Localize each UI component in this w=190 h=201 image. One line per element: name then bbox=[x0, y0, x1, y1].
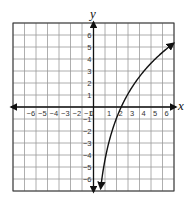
svg-text:−4: −4 bbox=[83, 151, 92, 160]
svg-text:6: 6 bbox=[87, 31, 91, 40]
svg-text:4: 4 bbox=[87, 55, 91, 64]
svg-text:1: 1 bbox=[87, 91, 91, 100]
svg-text:−3: −3 bbox=[83, 139, 92, 148]
svg-text:3: 3 bbox=[87, 67, 91, 76]
y-axis-label: y bbox=[88, 6, 96, 21]
svg-text:4: 4 bbox=[142, 109, 146, 118]
svg-text:5: 5 bbox=[87, 43, 91, 52]
svg-text:−6: −6 bbox=[27, 109, 36, 118]
svg-text:1: 1 bbox=[107, 109, 111, 118]
log-function-graph: −6−5−4−3−2−10123456−6−5−4−3−2−1123456 x … bbox=[0, 0, 190, 201]
svg-text:6: 6 bbox=[165, 109, 169, 118]
svg-text:−2: −2 bbox=[73, 109, 82, 118]
svg-text:−5: −5 bbox=[83, 163, 92, 172]
svg-text:−2: −2 bbox=[83, 127, 92, 136]
svg-text:2: 2 bbox=[87, 79, 91, 88]
svg-text:−6: −6 bbox=[83, 175, 92, 184]
svg-text:−1: −1 bbox=[83, 115, 92, 124]
svg-text:−3: −3 bbox=[61, 109, 70, 118]
x-axis-label: x bbox=[177, 98, 184, 113]
svg-text:3: 3 bbox=[130, 109, 134, 118]
svg-text:5: 5 bbox=[153, 109, 157, 118]
svg-text:−4: −4 bbox=[50, 109, 59, 118]
svg-text:−5: −5 bbox=[38, 109, 47, 118]
